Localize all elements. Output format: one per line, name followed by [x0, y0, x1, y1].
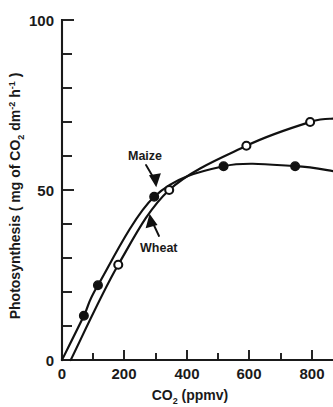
y-tick-label-50: 50: [37, 182, 54, 199]
data-point-maize-4: [291, 162, 300, 171]
data-point-wheat-0: [114, 261, 122, 269]
y-tick-marks: [62, 54, 74, 326]
data-point-maize-3: [219, 162, 228, 171]
x-tick-label-400: 400: [174, 365, 199, 382]
y-axis-title-s3: -1: [7, 81, 17, 89]
series-curve-maize: [62, 164, 333, 360]
x-tick-label-600: 600: [236, 365, 261, 382]
x-tick-label-800: 800: [299, 365, 324, 382]
x-tick-marks: [93, 350, 312, 360]
y-axis-title-p3: h: [7, 89, 23, 101]
data-point-maize-2: [150, 193, 159, 202]
annotation-label-maize: Maize: [128, 149, 162, 163]
data-point-wheat-2: [242, 142, 250, 150]
y-tick-label-0: 0: [46, 352, 54, 369]
y-tick-label-100: 100: [29, 12, 54, 29]
annotation-arrow-wheat-head: [147, 216, 156, 227]
y-axis-title: Photosynthesis ( mg of CO2 dm-2 h-1 ): [7, 73, 26, 320]
annotation-arrow-maize-head: [151, 175, 160, 186]
x-axis-title: CO2 (ppmv): [152, 387, 229, 406]
x-tick-label-200: 200: [111, 365, 136, 382]
series-markers-maize: [80, 162, 300, 320]
data-point-wheat-1: [165, 186, 173, 194]
x-axis-title-post: (ppmv): [178, 387, 229, 403]
x-tick-label-0: 0: [58, 365, 66, 382]
y-axis-title-p4: ): [7, 73, 23, 82]
chart-canvas: 100 50 0 0 200 400 600 800: [0, 0, 333, 407]
y-axis-title-p1: Photosynthesis ( mg of CO: [7, 140, 23, 320]
data-point-maize-1: [94, 281, 103, 290]
data-point-wheat-3: [306, 118, 314, 126]
photosynthesis-co2-chart: 100 50 0 0 200 400 600 800: [0, 0, 333, 407]
y-axis-title-p2: dm: [7, 110, 23, 135]
x-axis-title-main: CO: [152, 387, 173, 403]
series-curve-wheat: [71, 119, 333, 360]
annotation-label-wheat: Wheat: [140, 241, 178, 255]
y-axis-title-s2: -2: [7, 102, 17, 110]
data-point-maize-0: [80, 312, 89, 321]
